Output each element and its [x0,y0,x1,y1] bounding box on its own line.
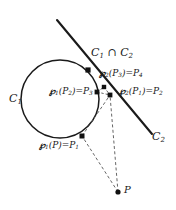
label-p4-arg: (P [109,68,119,78]
label-p1-arg: (P)=P [49,140,76,150]
marker-p3 [95,90,100,95]
label-point-p: P [124,185,131,195]
label-p4-equation: ℘2(P3)=P4 [99,69,143,79]
label-curve-c1-sub: 1 [17,97,21,106]
label-p3-arg: (P [59,86,69,96]
label-p1-arg-sub: 1 [75,144,79,150]
label-p4-tail-sub: 4 [139,72,143,78]
marker-p [115,189,120,194]
label-p3-tail-sub: 3 [89,90,93,96]
label-p2-equation: ℘2(P1)=P2 [119,87,163,97]
marker-p4 [102,85,106,89]
marker-p1 [80,134,85,139]
label-p3-equation: ℘1(P2)=P3 [49,87,93,97]
label-point-p-text: P [124,184,131,195]
label-p1-equation: ℘1(P)=P1 [39,141,79,151]
label-p3-tail: )=P [72,86,89,96]
marker-intersection [85,67,90,72]
label-intersection-c2: C [120,46,128,59]
label-intersection-c2-sub: 2 [129,51,133,60]
label-curve-c2-sub: 2 [160,135,164,144]
label-curve-c1: C1 [9,93,22,105]
label-p2-tail-sub: 2 [159,90,163,96]
intersection-operator-icon: ∩ [104,46,120,59]
geometry-figure: C1 C2 C1 ∩ C2 ℘2(P3)=P4 ℘1(P2)=P3 ℘2(P1)… [0,0,176,210]
label-p4-tail: )=P [122,68,139,78]
label-p2-arg: (P [129,86,139,96]
figure-canvas [0,0,176,210]
marker-p2 [108,93,113,98]
dashed-p-to-p2 [110,95,118,192]
dashed-p-to-p1 [82,136,118,192]
label-p2-tail: )=P [142,86,159,96]
label-intersection: C1 ∩ C2 [91,47,133,59]
label-curve-c2: C2 [152,131,165,143]
